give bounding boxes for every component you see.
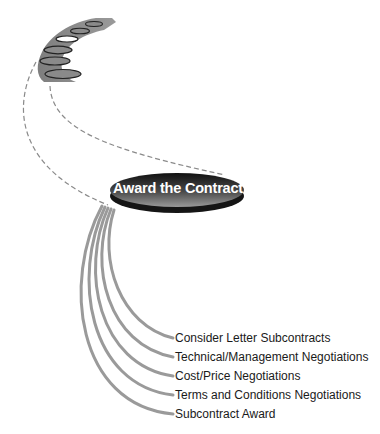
- stage-ellipse-5: [71, 28, 90, 34]
- process-band: [38, 18, 116, 82]
- stage-ellipse-highlighted: [56, 36, 78, 42]
- stage-ellipse-1: [45, 70, 81, 79]
- stage-ellipse-2: [40, 57, 70, 65]
- step-cost-price-negotiations: Cost/Price Negotiations: [175, 369, 300, 383]
- step-technical-management-negotiations: Technical/Management Negotiations: [175, 350, 368, 364]
- stage-ellipse-6: [86, 22, 103, 27]
- dashed-connector-inner: [50, 86, 225, 175]
- connector-step-4: [89, 207, 173, 395]
- step-subcontract-award: Subcontract Award: [175, 407, 276, 421]
- central-node-label: Award the Contract: [113, 180, 243, 196]
- step-consider-letter-subcontracts: Consider Letter Subcontracts: [175, 331, 330, 345]
- stage-ellipse-3: [44, 46, 72, 54]
- dashed-connector-outer: [23, 62, 108, 205]
- step-connectors: [81, 206, 173, 414]
- step-terms-conditions-negotiations: Terms and Conditions Negotiations: [175, 388, 361, 402]
